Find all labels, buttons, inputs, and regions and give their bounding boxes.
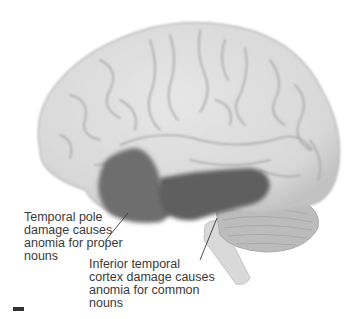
figure-corner-mark <box>13 307 24 311</box>
annotation-line: nouns <box>89 297 215 310</box>
temporal-pole-annotation: Temporal pole damage causes anomia for p… <box>24 211 123 263</box>
inferior-temporal-annotation: Inferior temporal cortex damage causes a… <box>89 258 215 310</box>
